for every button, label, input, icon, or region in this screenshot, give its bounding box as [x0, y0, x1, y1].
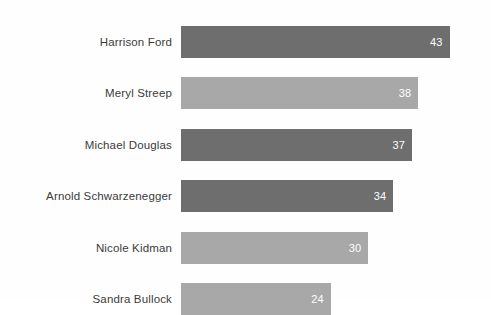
bar-category-label: Sandra Bullock: [0, 283, 172, 315]
bar-category-label: Harrison Ford: [0, 26, 172, 58]
bar-value-label: 43: [430, 26, 450, 58]
bar-value-label: 30: [349, 232, 369, 264]
bar-track: 43: [181, 26, 491, 58]
bar-track: 38: [181, 77, 491, 109]
bar-track: 24: [181, 283, 491, 315]
bar-category-label: Arnold Schwarzenegger: [0, 180, 172, 212]
bar-category-label: Nicole Kidman: [0, 232, 172, 264]
bar-category-label: Meryl Streep: [0, 77, 172, 109]
bar-row: Nicole Kidman30: [0, 232, 491, 264]
bar: 24: [181, 283, 331, 315]
bar-value-label: 24: [311, 283, 331, 315]
bar-value-label: 34: [374, 180, 394, 212]
bar-track: 37: [181, 129, 491, 161]
bar-value-label: 38: [399, 77, 419, 109]
bar-value-label: 37: [392, 129, 412, 161]
bar-row: Harrison Ford43: [0, 26, 491, 58]
bar-track: 30: [181, 232, 491, 264]
bar-row: Arnold Schwarzenegger34: [0, 180, 491, 212]
bar: 43: [181, 26, 450, 58]
bar: 37: [181, 129, 412, 161]
bar-row: Michael Douglas37: [0, 129, 491, 161]
bar-category-label: Michael Douglas: [0, 129, 172, 161]
bar: 34: [181, 180, 393, 212]
bar-row: Meryl Streep38: [0, 77, 491, 109]
bar-track: 34: [181, 180, 491, 212]
bar: 38: [181, 77, 418, 109]
bar: 30: [181, 232, 368, 264]
bar-row: Sandra Bullock24: [0, 283, 491, 315]
